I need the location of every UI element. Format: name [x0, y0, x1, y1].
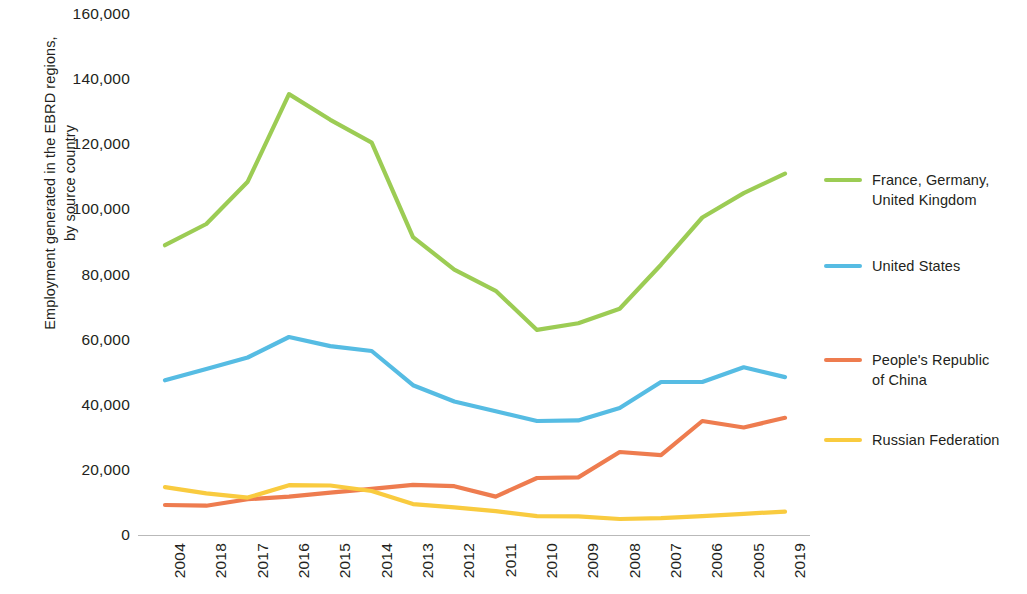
x-axis-tick-label: 2016 [296, 543, 312, 594]
x-axis-tick-label: 2019 [792, 543, 808, 594]
legend-item-label-line1: People's Republic [872, 350, 989, 370]
x-axis-tick-label: 2013 [420, 543, 436, 594]
x-axis-tick-label: 2006 [709, 543, 725, 594]
legend-item[interactable]: Russian Federation [824, 430, 1000, 450]
x-axis-tick-label: 2005 [751, 543, 767, 594]
legend-item-label-line2: United Kingdom [872, 190, 989, 210]
x-axis-tick-label: 2010 [544, 543, 560, 594]
x-axis-tick-label: 2008 [627, 543, 643, 594]
legend-item-label-line2: of China [872, 370, 989, 390]
x-axis-tick-label: 2014 [379, 543, 395, 594]
x-axis-tick-label: 2017 [255, 543, 271, 594]
legend-item[interactable]: United States [824, 256, 960, 276]
legend-item-label: United States [872, 256, 960, 276]
legend-item[interactable]: People's Republicof China [824, 350, 989, 390]
x-axis-tick-label: 2009 [585, 543, 601, 594]
x-axis-tick-label: 2015 [337, 543, 353, 594]
legend-color-swatch [824, 438, 862, 442]
legend-color-swatch [824, 264, 862, 268]
x-axis-tick-label: 2018 [213, 543, 229, 594]
legend-item-label: France, Germany,United Kingdom [872, 170, 989, 210]
legend-color-swatch [824, 358, 862, 362]
x-axis-tick-label: 2007 [668, 543, 684, 594]
legend-item-label-line1: France, Germany, [872, 170, 989, 190]
legend-color-swatch [824, 178, 862, 182]
legend-item-label: People's Republicof China [872, 350, 989, 390]
chart-figure: Employment generated in the EBRD regions… [0, 0, 1027, 594]
x-axis-tick-label: 2004 [172, 543, 188, 594]
x-axis-tick-labels: 2004201820172016201520142013201220112010… [0, 0, 1027, 594]
legend-item-label: Russian Federation [872, 430, 1000, 450]
x-axis-tick-label: 2011 [503, 543, 519, 594]
legend-item[interactable]: France, Germany,United Kingdom [824, 170, 989, 210]
x-axis-tick-label: 2012 [461, 543, 477, 594]
